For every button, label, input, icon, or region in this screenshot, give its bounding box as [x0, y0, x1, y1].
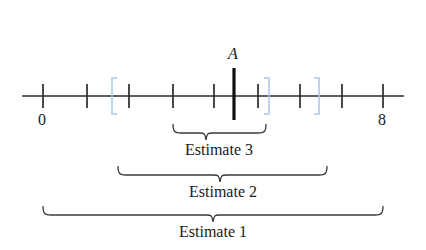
- number-line-figure: A 0 8 Estimate 3 Estimate 2 Estimate 1: [0, 0, 426, 250]
- brace-estimate-3: [173, 124, 266, 140]
- brace-estimate-2: [118, 166, 327, 182]
- brace-label-estimate-2: Estimate 2: [143, 184, 303, 200]
- axis-end-label: 8: [378, 112, 386, 128]
- point-a-label: A: [228, 46, 238, 62]
- brace-label-estimate-1: Estimate 1: [133, 224, 293, 240]
- figure-canvas: [0, 0, 426, 250]
- brace-label-estimate-3: Estimate 3: [139, 142, 299, 158]
- brace-estimate-1: [43, 206, 383, 222]
- axis-start-label: 0: [38, 112, 46, 128]
